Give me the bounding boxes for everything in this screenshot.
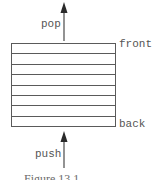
front-label: front [119,39,152,50]
stack-row [12,44,115,54]
pop-label: pop [41,19,61,30]
figure-caption: Figure 13.1 ... [24,173,91,180]
stack-row [12,75,115,85]
push-arrow-icon [61,131,68,168]
stack-row [12,117,115,126]
stack-row [12,106,115,116]
push-label: push [35,149,61,160]
stack-row [12,65,115,75]
stack-row [12,86,115,96]
stack-row [12,96,115,106]
stack-row [12,54,115,64]
back-label: back [119,119,145,130]
diagram-canvas: pop front back push Figure 13.1 ... [0,0,154,180]
pop-arrow-icon [61,2,68,41]
stack-container [11,43,116,127]
